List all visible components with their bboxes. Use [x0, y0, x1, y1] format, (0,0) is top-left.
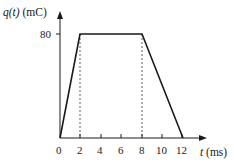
- x-tick-label: 2: [77, 144, 83, 156]
- x-tick-label: 12: [176, 144, 187, 156]
- y-axis-arg: (t): [9, 6, 20, 18]
- x-tick-label: 4: [97, 144, 103, 156]
- x-axis-label: t (ms): [200, 146, 227, 158]
- x-tick-label: 0: [56, 144, 62, 156]
- y-axis-arrow-icon: [57, 11, 63, 19]
- chart-canvas: [0, 0, 234, 164]
- y-tick-label-80: 80: [40, 28, 51, 40]
- x-tick-label: 10: [156, 144, 167, 156]
- y-axis-unit: (mC): [20, 6, 47, 18]
- x-ticks: [80, 134, 182, 138]
- x-tick-label: 6: [118, 144, 124, 156]
- q-waveform: [60, 34, 183, 138]
- y-axis-label: q(t) (mC): [3, 6, 47, 18]
- x-tick-label: 8: [139, 144, 145, 156]
- x-axis-arrow-icon: [199, 135, 207, 141]
- x-axis-unit: (ms): [203, 146, 227, 158]
